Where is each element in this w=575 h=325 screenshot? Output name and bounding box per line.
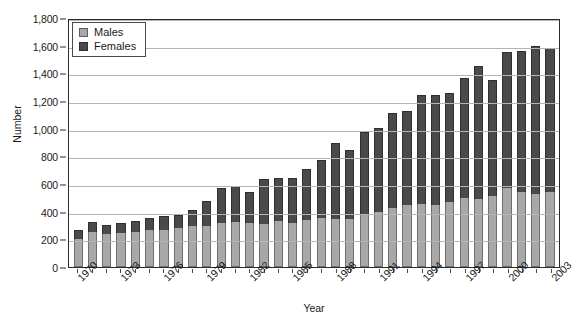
bar-segment-males bbox=[317, 218, 326, 267]
bar-stack bbox=[445, 20, 454, 267]
y-axis-tick-label: 400 bbox=[41, 207, 58, 219]
x-axis-tickmark bbox=[278, 269, 279, 273]
bar-stack bbox=[74, 20, 83, 267]
bar-segment-females bbox=[288, 178, 297, 223]
gridline bbox=[69, 186, 559, 187]
x-axis-tickmark bbox=[536, 269, 537, 273]
bar-segment-females bbox=[345, 150, 354, 218]
bar-stack bbox=[474, 20, 483, 267]
x-axis-tickmark bbox=[106, 269, 107, 273]
stacked-bar-chart: Number 02004006008001,0001,2001,4001,600… bbox=[0, 0, 575, 325]
bar-segment-females bbox=[460, 78, 469, 198]
bar-segment-females bbox=[502, 52, 511, 188]
y-axis-tick-label: 0 bbox=[52, 262, 58, 274]
bar-column bbox=[386, 20, 400, 267]
x-axis-tickmark bbox=[407, 269, 408, 273]
bar-column bbox=[214, 20, 228, 267]
bar-segment-females bbox=[531, 46, 540, 195]
bar-column bbox=[443, 20, 457, 267]
x-axis-tickmark bbox=[321, 269, 322, 273]
bar-segment-males bbox=[74, 239, 83, 267]
bar-column bbox=[486, 20, 500, 267]
y-axis-tickmark bbox=[60, 129, 66, 130]
bar-segment-females bbox=[374, 128, 383, 212]
bar-stack bbox=[217, 20, 226, 267]
legend-item-males: Males bbox=[79, 27, 136, 38]
bar-segment-females bbox=[174, 215, 183, 228]
gridline bbox=[69, 131, 559, 132]
y-axis-tickmark bbox=[60, 268, 66, 269]
bar-column bbox=[185, 20, 199, 267]
bar-stack bbox=[131, 20, 140, 267]
y-axis: Number 02004006008001,0001,2001,4001,600… bbox=[0, 0, 68, 288]
y-axis-tick-label: 600 bbox=[41, 179, 58, 191]
y-axis-tick-label: 1,600 bbox=[33, 41, 58, 53]
bar-stack bbox=[188, 20, 197, 267]
bar-segment-females bbox=[74, 230, 83, 239]
bar-column bbox=[314, 20, 328, 267]
bar-column bbox=[300, 20, 314, 267]
bar-segment-females bbox=[217, 188, 226, 223]
y-axis-tickmark bbox=[60, 102, 66, 103]
bar-segment-males bbox=[531, 194, 540, 267]
bar-segment-females bbox=[159, 216, 168, 230]
bar-segment-females bbox=[302, 169, 311, 219]
bar-segment-females bbox=[317, 160, 326, 218]
bar-segment-males bbox=[102, 234, 111, 267]
bar-stack bbox=[531, 20, 540, 267]
bar-stack bbox=[360, 20, 369, 267]
y-axis-tickmark bbox=[60, 46, 66, 47]
y-axis-tick-label: 1,400 bbox=[33, 68, 58, 80]
bar-segment-females bbox=[274, 178, 283, 221]
bar-stack bbox=[145, 20, 154, 267]
bar-column bbox=[371, 20, 385, 267]
bar-segment-males bbox=[502, 188, 511, 267]
bar-stack bbox=[388, 20, 397, 267]
bar-column bbox=[100, 20, 114, 267]
gridline bbox=[69, 214, 559, 215]
bar-segment-females bbox=[188, 210, 197, 226]
x-axis-tickmark bbox=[450, 269, 451, 273]
bar-stack bbox=[331, 20, 340, 267]
bar-column bbox=[71, 20, 85, 267]
bar-column bbox=[85, 20, 99, 267]
x-axis-tickmark bbox=[235, 269, 236, 273]
bar-column bbox=[243, 20, 257, 267]
x-axis: 1970197319761979198219851988199119941997… bbox=[68, 269, 560, 325]
bar-stack bbox=[159, 20, 168, 267]
bar-segment-males bbox=[445, 202, 454, 267]
bar-stack bbox=[431, 20, 440, 267]
y-axis-tickmark bbox=[60, 240, 66, 241]
bar-segment-males bbox=[202, 226, 211, 268]
chart-legend: Males Females bbox=[72, 22, 146, 57]
bar-segment-males bbox=[288, 223, 297, 267]
bar-column bbox=[457, 20, 471, 267]
bar-segment-females bbox=[417, 95, 426, 204]
x-axis-title: Year bbox=[68, 302, 560, 314]
bar-column bbox=[228, 20, 242, 267]
bar-stack bbox=[345, 20, 354, 267]
y-axis-tick-label: 1,000 bbox=[33, 124, 58, 136]
bar-segment-females bbox=[88, 222, 97, 232]
y-axis-tick-label: 200 bbox=[41, 234, 58, 246]
y-axis-tickmark bbox=[60, 212, 66, 213]
legend-label-males: Males bbox=[94, 27, 123, 38]
gridline bbox=[69, 20, 559, 21]
bar-segment-females bbox=[102, 225, 111, 234]
bar-stack bbox=[545, 20, 554, 267]
bar-stack bbox=[374, 20, 383, 267]
bar-segment-females bbox=[116, 223, 125, 233]
bar-stack bbox=[274, 20, 283, 267]
bar-column bbox=[500, 20, 514, 267]
bar-segment-females bbox=[131, 221, 140, 233]
bar-stack bbox=[202, 20, 211, 267]
x-axis-ticks bbox=[68, 269, 560, 274]
bar-stack bbox=[402, 20, 411, 267]
bar-segment-males bbox=[188, 226, 197, 268]
bar-column bbox=[428, 20, 442, 267]
bar-column bbox=[400, 20, 414, 267]
bar-stack bbox=[317, 20, 326, 267]
bar-column bbox=[357, 20, 371, 267]
bar-segment-males bbox=[116, 233, 125, 267]
bar-stack bbox=[488, 20, 497, 267]
